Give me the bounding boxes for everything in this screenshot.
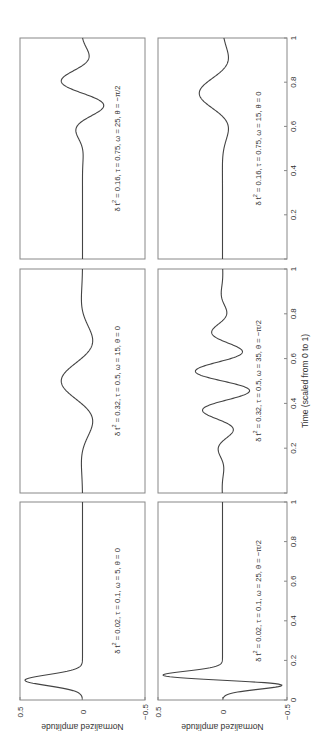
panel-6: δ t2 = 0.16, τ = 0.75, ω = 15, θ = 0 bbox=[158, 38, 287, 259]
time-tick-label: 0.4 bbox=[289, 397, 298, 409]
time-tick-label: 0.6 bbox=[289, 575, 298, 587]
amplitude-tick-label: 0.5 bbox=[154, 706, 163, 718]
time-tick-label: 0.2 bbox=[289, 209, 298, 221]
time-tick-label: 0 bbox=[289, 697, 298, 702]
panel-4: δ t2 = 0.02, τ = 0.1, ω = 25, θ = −π/2 bbox=[158, 502, 287, 700]
axes-frame bbox=[20, 269, 145, 493]
panel-annotation: δ t2 = 0.02, τ = 0.1, ω = 5, θ = 0 bbox=[111, 548, 122, 654]
panel-2: δ t2 = 0.32, τ = 0.5, ω = 15, θ = 0 bbox=[20, 269, 145, 493]
panel-1: δ t2 = 0.02, τ = 0.1, ω = 5, θ = 0 bbox=[20, 502, 145, 700]
panel-annotation: δ t2 = 0.32, τ = 0.5, ω = 35, θ = −π/2 bbox=[252, 320, 263, 442]
panel-5: δ t2 = 0.32, τ = 0.5, ω = 35, θ = −π/2 bbox=[158, 269, 287, 493]
time-tick-label: 0.8 bbox=[289, 535, 298, 547]
signal-curve bbox=[163, 502, 282, 700]
amplitude-tick-label: −0.5 bbox=[283, 704, 292, 720]
time-tick-label: 1 bbox=[289, 499, 298, 504]
amplitude-tick-label: −0.5 bbox=[141, 704, 150, 720]
figure: δ t2 = 0.02, τ = 0.1, ω = 5, θ = 0δ t2 =… bbox=[0, 0, 316, 753]
ylabel-normalized-amplitude: Normalized amplitude bbox=[41, 722, 123, 732]
time-tick-label: 0.2 bbox=[289, 442, 298, 454]
time-tick-label: 0.6 bbox=[289, 352, 298, 364]
panel-annotation: δ t2 = 0.16, τ = 0.75, ω = 15, θ = 0 bbox=[252, 91, 263, 205]
time-tick-label: 1 bbox=[289, 266, 298, 271]
signal-curve bbox=[61, 269, 92, 493]
time-tick-label: 0.8 bbox=[289, 308, 298, 320]
xlabel-time: Time (scaled from 0 to 1) bbox=[300, 334, 310, 428]
panel-annotation: δ t2 = 0.02, τ = 0.1, ω = 25, θ = −π/2 bbox=[252, 540, 263, 662]
time-tick-label: 0.4 bbox=[289, 164, 298, 176]
amplitude-tick-label: 0 bbox=[79, 709, 88, 714]
panel-3: δ t2 = 0.16, τ = 0.75, ω = 25, θ = −π/2 bbox=[20, 38, 145, 259]
ylabel-normalized-amplitude: Normalized amplitude bbox=[181, 722, 263, 732]
signal-curve bbox=[195, 269, 249, 493]
time-tick-label: 0.4 bbox=[289, 615, 298, 627]
time-tick-label: 0.6 bbox=[289, 120, 298, 132]
time-tick-label: 0.8 bbox=[289, 76, 298, 88]
time-tick-label: 0.2 bbox=[289, 654, 298, 666]
panel-annotation: δ t2 = 0.32, τ = 0.5, ω = 15, θ = 0 bbox=[111, 326, 122, 436]
amplitude-tick-label: 0 bbox=[219, 709, 228, 714]
signal-curve bbox=[61, 38, 104, 259]
signal-curve bbox=[25, 502, 83, 700]
signal-curve bbox=[199, 38, 228, 259]
time-tick-label: 1 bbox=[289, 35, 298, 40]
amplitude-tick-label: 0.5 bbox=[16, 706, 25, 718]
panel-annotation: δ t2 = 0.16, τ = 0.75, ω = 25, θ = −π/2 bbox=[111, 86, 122, 212]
